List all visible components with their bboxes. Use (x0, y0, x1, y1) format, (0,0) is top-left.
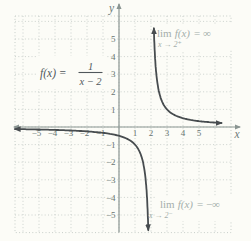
limit-bottom-lim: lim (160, 198, 175, 210)
y-tick-label: −2 (106, 157, 116, 167)
limit-bottom-value: = −∞ (197, 198, 220, 210)
y-axis-label: y (108, 2, 115, 15)
axis-letters: y x (108, 2, 241, 140)
limit-bottom-text: limf(x)= −∞ (160, 198, 220, 211)
limit-top-lim: lim (157, 27, 172, 39)
x-tick-label: 2 (149, 128, 154, 138)
y-tick-label: −1 (106, 140, 116, 150)
limit-top-text: limf(x)= ∞ (157, 27, 211, 40)
x-tick-label: 4 (181, 128, 186, 138)
y-tick-label: 5 (111, 34, 116, 44)
y-tick-label: 3 (111, 69, 116, 79)
x-tick-label: 1 (133, 128, 138, 138)
y-tick-label: 1 (111, 105, 116, 115)
limit-bottom-func: f(x) (178, 198, 194, 211)
y-tick-label: 2 (111, 87, 116, 97)
formula-numerator: 1 (88, 61, 93, 72)
limit-top-value: = ∞ (194, 27, 211, 39)
limit-top-func: f(x) (175, 27, 191, 40)
y-tick-label: −4 (106, 193, 116, 203)
x-axis-label: x (233, 128, 240, 140)
x-tick-label: −2 (80, 128, 90, 138)
y-tick-label: −3 (106, 175, 116, 185)
function-graph-figure: −5−4−3−2−112345−5−4−3−2−112345 y x f(x) … (0, 0, 251, 241)
y-tick-label: −5 (106, 210, 116, 220)
limit-bottom-condition: x → 2⁻ (148, 211, 173, 220)
limit-top-condition: x → 2⁺ (157, 40, 182, 49)
formula-lhs: f(x) = (40, 67, 67, 80)
plot-svg: −5−4−3−2−112345−5−4−3−2−112345 y x f(x) … (0, 0, 251, 241)
x-tick-label: 3 (165, 128, 170, 138)
x-tick-label: 5 (197, 128, 202, 138)
y-tick-label: 4 (111, 52, 116, 62)
formula-denominator: x − 2 (78, 76, 102, 87)
x-tick-label: −3 (64, 128, 74, 138)
